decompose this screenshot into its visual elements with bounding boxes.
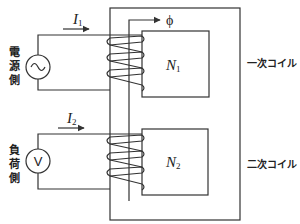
secondary-coil-label: 二次コイル bbox=[247, 158, 297, 170]
svg-text:荷: 荷 bbox=[8, 157, 20, 171]
flux-label: ϕ bbox=[166, 13, 173, 28]
svg-text:電: 電 bbox=[9, 46, 20, 59]
voltmeter-symbol: V bbox=[34, 154, 43, 169]
transformer-diagram: V I1 I2 ϕ N1 N2 一次コイル 二次コイル 電 源 側 負 荷 側 bbox=[0, 0, 300, 224]
load-side-label: 負 荷 側 bbox=[8, 143, 20, 185]
ac-wave bbox=[31, 64, 45, 71]
svg-text:源: 源 bbox=[9, 59, 20, 73]
source-side-label: 電 源 側 bbox=[8, 46, 20, 87]
secondary-coil bbox=[107, 135, 144, 190]
primary-turns-label: N1 bbox=[165, 57, 181, 74]
primary-coil-label: 一次コイル bbox=[247, 57, 297, 69]
svg-text:側: 側 bbox=[8, 73, 20, 87]
primary-coil bbox=[107, 36, 144, 91]
primary-current-label: I1 bbox=[72, 11, 83, 28]
secondary-turns-label: N2 bbox=[165, 154, 181, 171]
secondary-current-label: I2 bbox=[66, 110, 77, 127]
svg-text:負: 負 bbox=[9, 143, 20, 157]
svg-text:側: 側 bbox=[8, 171, 20, 185]
